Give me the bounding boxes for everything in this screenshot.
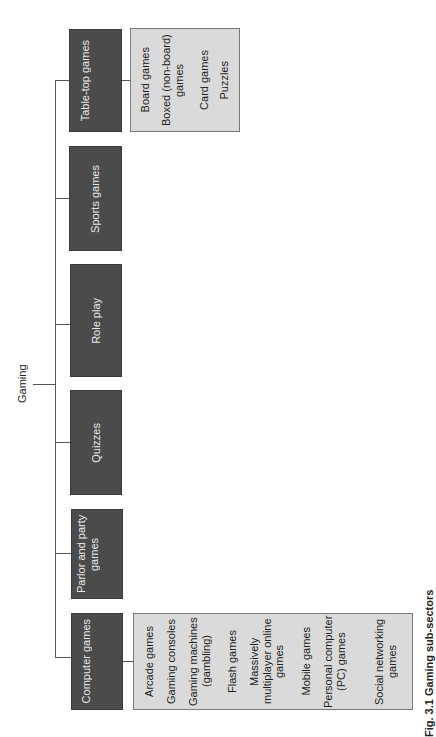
subitem: Puzzles (218, 61, 231, 100)
category-quizzes: Quizzes (70, 390, 122, 495)
category-label: Quizzes (90, 423, 103, 463)
figure-caption: Fig. 3.1 Gaming sub-sectors (423, 560, 436, 737)
subitems-computer-games: Arcade games Gaming consoles Gaming mach… (133, 613, 413, 710)
subitem: Flash games (226, 630, 239, 693)
branch-connector-parlor (55, 553, 71, 554)
subitem: Massively multiplayer online games (248, 614, 290, 709)
branch-connector-table-top (55, 80, 70, 81)
subitem: Boxed (non-board) games (160, 29, 190, 131)
category-parlor-and-party-games: Parlor and party games (71, 509, 123, 599)
category-label: Parlor and party games (75, 510, 119, 598)
branch-connector-role-play (55, 324, 70, 325)
category-sports-games: Sports games (69, 146, 122, 251)
branch-connector-quizzes (55, 442, 70, 443)
category-role-play: Role play (70, 264, 122, 377)
subitem: Gaming machines (gambling) (187, 614, 217, 709)
subitems-table-top-games: Board games Boxed (non-board) games Card… (130, 28, 240, 132)
category-table-top-games: Table-top games (69, 29, 122, 132)
subitem: Board games (139, 47, 152, 112)
branch-connector-computer (55, 657, 71, 658)
branch-connector-sports (55, 198, 70, 199)
subitem: Gaming consoles (165, 619, 178, 704)
sub-connector-table-top (122, 80, 130, 81)
root-connector (33, 384, 55, 385)
category-label: Table-top games (79, 40, 113, 121)
trunk-line (55, 80, 56, 658)
category-computer-games: Computer games (71, 613, 123, 710)
subitem: Arcade games (143, 626, 156, 697)
subitem: Mobile games (300, 627, 313, 695)
subitem: Personal computer (PC) games (322, 614, 364, 709)
category-label: Computer games (80, 619, 114, 703)
subitem: Card games (198, 50, 211, 110)
sub-connector-computer (123, 661, 133, 662)
root-node-gaming: Gaming (16, 362, 32, 406)
category-label: Sports games (89, 165, 102, 233)
category-label: Role play (90, 298, 103, 344)
subitem: Social networking games (373, 614, 403, 709)
